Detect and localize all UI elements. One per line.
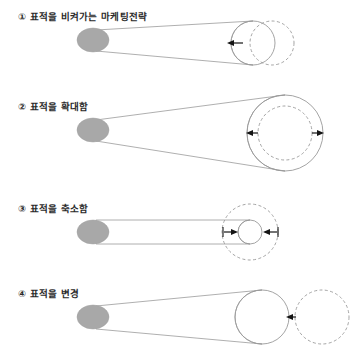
panel-1-source-blob (77, 28, 109, 52)
panel-3-label: ③ 표적을 축소함 (18, 203, 88, 214)
panel-2-source-blob (77, 118, 109, 142)
panel-4-source-blob (77, 305, 109, 329)
marketing-target-strategy-diagram: ① 표적을 비켜가는 마케팅전략 ② 표적을 확대함 ③ 표적을 (0, 0, 352, 348)
panel-3-source-blob (77, 220, 109, 244)
panel-4-label: ④ 표적을 변경 (18, 288, 79, 299)
panel-1-label: ① 표적을 비켜가는 마케팅전략 (18, 11, 147, 22)
panel-2-label: ② 표적을 확대함 (18, 101, 88, 112)
